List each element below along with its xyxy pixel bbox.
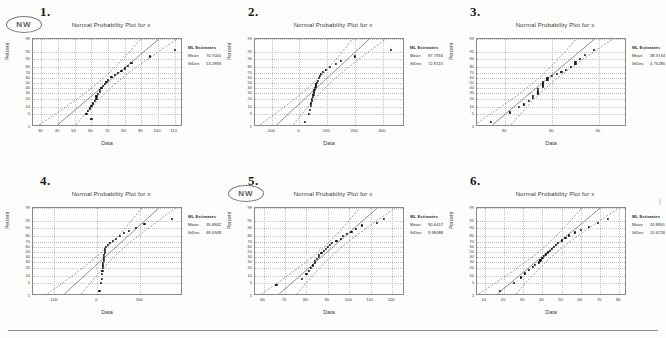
x-axis-tick: 90 xyxy=(325,297,330,302)
band-lower xyxy=(479,208,582,294)
plot-area: 9995908070605040302010513040506070809010… xyxy=(32,38,182,126)
y-axis-label: Percent xyxy=(4,212,10,229)
y-axis-tick: 10 xyxy=(248,104,252,109)
legend-heading: ML Estimates xyxy=(632,44,665,52)
y-axis-tick: 80 xyxy=(248,233,252,238)
legend-row-stdev: StDev9.98488 xyxy=(410,229,443,237)
y-axis-tick: 30 xyxy=(470,89,474,94)
question-number: 6. xyxy=(470,173,481,189)
legend-value: 4.75280 xyxy=(650,60,665,68)
band-lower xyxy=(47,208,142,294)
y-axis-tick: 1 xyxy=(250,124,252,129)
legend-row-mean: Mean70.7000 xyxy=(188,52,221,60)
y-axis-label: Percent xyxy=(226,212,232,229)
question-number: 3. xyxy=(470,4,481,20)
plot-cell-2: 2.Normal Probability Plot for xPercentDa… xyxy=(222,0,444,169)
legend-value: 72.8115 xyxy=(428,60,443,68)
x-axis-label: Data xyxy=(32,309,182,315)
y-axis-tick: 99 xyxy=(470,36,474,41)
plot-area: 9995908070605040302010511020304050607080 xyxy=(476,207,626,295)
y-axis-tick: 90 xyxy=(248,55,252,60)
x-axis-tick: 40 xyxy=(55,128,60,133)
x-axis-tick: 70 xyxy=(105,128,110,133)
plot-cell-6: 6.Normal Probability Plot for xPercentDa… xyxy=(444,169,666,338)
band-upper xyxy=(81,208,176,294)
y-axis-tick: 90 xyxy=(248,224,252,229)
plot-area: 9995908070605040302010516070809010011012… xyxy=(254,207,404,295)
legend-key: StDev xyxy=(188,60,200,68)
ml-estimates-legend: ML EstimatesMean90.6417StDev9.98488 xyxy=(410,213,443,237)
y-axis-tick: 1 xyxy=(250,293,252,298)
x-axis-tick: 10 xyxy=(481,297,486,302)
legend-row-mean: Mean87.7916 xyxy=(410,52,443,60)
legend-key: StDev xyxy=(410,229,422,237)
plot-title: Normal Probability Plot for x xyxy=(222,191,444,197)
y-axis-tick: 90 xyxy=(470,224,474,229)
legend-row-mean: Mean43.8801 xyxy=(632,221,665,229)
legend-key: Mean xyxy=(188,221,200,229)
page-edge-mark: ( xyxy=(659,196,662,206)
y-axis-tick: 20 xyxy=(26,95,30,100)
y-axis-tick: 1 xyxy=(472,124,474,129)
legend-key: StDev xyxy=(410,60,422,68)
y-axis-tick: 1 xyxy=(472,293,474,298)
x-axis-tick: -100 xyxy=(266,128,274,133)
y-axis-tick: 95 xyxy=(248,217,252,222)
x-axis-tick: 120 xyxy=(388,297,395,302)
x-axis-tick: 30 xyxy=(520,297,525,302)
x-axis-tick: 70 xyxy=(597,297,602,302)
legend-value: 9.98488 xyxy=(428,229,443,237)
y-axis-tick: 20 xyxy=(248,264,252,269)
plot-area: 999590807060504030201051-1000100200300 xyxy=(254,38,404,126)
plot-cell-5: 5.NWNormal Probability Plot for xPercent… xyxy=(222,169,444,338)
y-axis-tick: 90 xyxy=(470,55,474,60)
y-axis-tick: 20 xyxy=(470,264,474,269)
fit-and-bands xyxy=(255,208,403,294)
x-axis-tick: 20 xyxy=(501,297,506,302)
legend-heading: ML Estimates xyxy=(410,44,443,52)
plot-title: Normal Probability Plot for x xyxy=(444,191,666,197)
y-axis-tick: 90 xyxy=(26,55,30,60)
x-axis-tick: 200 xyxy=(351,128,358,133)
fit-and-bands xyxy=(255,39,403,125)
y-axis-tick: 5 xyxy=(250,111,252,116)
x-axis-tick: 30 xyxy=(502,128,507,133)
x-axis-tick: 100 xyxy=(345,297,352,302)
y-axis-tick: 30 xyxy=(26,89,30,94)
plot-frame xyxy=(32,207,182,295)
y-axis-tick: 80 xyxy=(470,64,474,69)
legend-row-mean: Mean90.6417 xyxy=(410,221,443,229)
x-axis-label: Data xyxy=(476,309,626,315)
legend-row-mean: Mean38.3744 xyxy=(632,52,665,60)
legend-key: Mean xyxy=(410,52,422,60)
question-number: 4. xyxy=(40,173,51,189)
legend-key: Mean xyxy=(632,221,644,229)
legend-row-mean: Mean35.8842 xyxy=(188,221,221,229)
legend-key: Mean xyxy=(410,221,422,229)
x-axis-tick: 40 xyxy=(549,128,554,133)
legend-key: StDev xyxy=(632,60,644,68)
fit-and-bands xyxy=(33,208,181,294)
y-axis-tick: 95 xyxy=(248,48,252,53)
y-axis-tick: 10 xyxy=(248,273,252,278)
plot-frame xyxy=(476,207,626,295)
question-number: 2. xyxy=(248,4,259,20)
band-upper xyxy=(293,39,386,125)
y-axis-tick: 90 xyxy=(26,224,30,229)
y-axis-tick: 5 xyxy=(250,280,252,285)
y-axis-tick: 30 xyxy=(248,89,252,94)
question-number: 1. xyxy=(40,4,51,20)
y-axis-label: Percent xyxy=(226,43,232,60)
x-axis-tick: 300 xyxy=(378,128,385,133)
y-axis-tick: 5 xyxy=(28,111,30,116)
y-axis-tick: 99 xyxy=(470,205,474,210)
y-axis-tick: 99 xyxy=(26,205,30,210)
plot-cell-1: 1.NWNormal Probability Plot for xPercent… xyxy=(0,0,222,169)
band-lower xyxy=(477,39,576,125)
legend-key: StDev xyxy=(188,229,200,237)
y-axis-tick: 30 xyxy=(248,258,252,263)
legend-value: 87.7916 xyxy=(428,52,443,60)
x-axis-tick: 100 xyxy=(323,128,330,133)
legend-heading: ML Estimates xyxy=(188,213,221,221)
legend-row-stdev: StDev11.6728 xyxy=(632,229,665,237)
